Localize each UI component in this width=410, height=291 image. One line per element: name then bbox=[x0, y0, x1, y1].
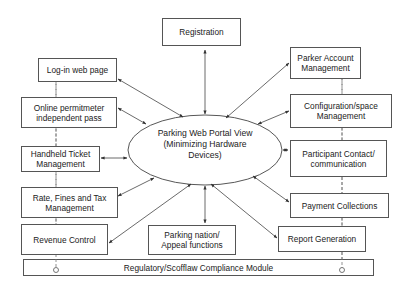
arrow-config bbox=[258, 111, 289, 124]
module-login: Log-in web page bbox=[38, 58, 117, 82]
module-label: Online permitmeter bbox=[34, 103, 105, 113]
module-payment-collections: Payment Collections bbox=[290, 193, 389, 218]
module-label: Registration bbox=[179, 27, 223, 37]
portal-label-line: Devices) bbox=[148, 150, 262, 161]
module-label: Participant Contact/ bbox=[302, 149, 374, 159]
module-label: Configuration/space bbox=[304, 101, 378, 111]
module-report-generation: Report Generation bbox=[278, 226, 366, 252]
compliance-label: Regulatory/Scofflaw Compliance Module bbox=[124, 263, 273, 273]
module-revenue-control: Revenue Control bbox=[21, 224, 108, 255]
portal-label-line: (Minimizing Hardware bbox=[148, 139, 262, 150]
module-label: Report Generation bbox=[288, 234, 356, 244]
arrow-payment bbox=[253, 176, 289, 202]
module-label: Parking nation/ bbox=[164, 230, 219, 240]
module-label: Rate, Fines and Tax bbox=[33, 193, 107, 203]
module-label: Handheld Ticket bbox=[31, 149, 91, 159]
compliance-module-bar: Regulatory/Scofflaw Compliance Module bbox=[23, 259, 374, 276]
module-label: Log-in web page bbox=[47, 65, 108, 75]
module-registration: Registration bbox=[162, 18, 241, 46]
arrow-rate bbox=[118, 178, 154, 196]
module-label: Management bbox=[317, 111, 365, 121]
module-label: Management bbox=[36, 159, 84, 169]
module-appeal: Parking nation/ Appeal functions bbox=[148, 225, 236, 255]
arrow-online-permit bbox=[118, 108, 146, 124]
arrow-parker bbox=[226, 63, 289, 118]
portal-label-line: Parking Web Portal View bbox=[148, 128, 262, 139]
module-parker-account: Parker Account Management bbox=[290, 47, 361, 79]
module-label: independent pass bbox=[36, 113, 102, 123]
module-online-permit: Online permitmeter independent pass bbox=[21, 97, 117, 128]
module-label: communication bbox=[311, 159, 367, 169]
arrow-login bbox=[118, 79, 183, 117]
module-label: Appeal functions bbox=[161, 240, 222, 250]
module-label: Management bbox=[301, 63, 349, 73]
portal-label: Parking Web Portal View (Minimizing Hard… bbox=[148, 128, 262, 161]
module-handheld-ticket: Handheld Ticket Management bbox=[21, 146, 100, 172]
module-label: Payment Collections bbox=[302, 201, 378, 211]
module-configuration: Configuration/space Management bbox=[290, 94, 392, 128]
module-label: Revenue Control bbox=[33, 235, 95, 245]
module-rate-fines-tax: Rate, Fines and Tax Management bbox=[21, 187, 118, 218]
module-participant-contact: Participant Contact/ communication bbox=[290, 140, 387, 177]
module-label: Parker Account bbox=[297, 53, 353, 63]
module-label: Management bbox=[45, 203, 93, 213]
